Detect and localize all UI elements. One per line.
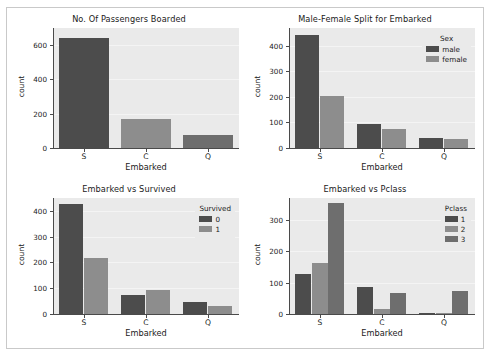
legend-swatch [199, 216, 212, 222]
x-tick-label-S: S [300, 318, 340, 327]
x-tick-label-Q: Q [424, 318, 464, 327]
bar-male-female-split-Q-female [444, 139, 468, 148]
y-tick-label: 100 [251, 278, 283, 287]
x-tick-label-S: S [300, 152, 340, 161]
x-tick-mark [320, 149, 321, 152]
bar-embarked-vs-survived-C-0 [121, 295, 145, 314]
legend-embarked-vs-pclass: Pclass123 [441, 202, 471, 248]
x-axis-label: Embarked [53, 328, 239, 338]
legend-embarked-vs-survived: Survived01 [195, 202, 235, 238]
legend-entry[interactable]: female [426, 55, 467, 64]
legend-swatch [199, 226, 212, 232]
y-axis-label: count [17, 65, 26, 109]
y-axis-spine [53, 28, 54, 148]
y-axis-spine [289, 28, 290, 148]
bar-male-female-split-C-male [357, 124, 381, 148]
bar-passengers-boarded-C [121, 119, 171, 148]
bar-embarked-vs-survived-Q-0 [183, 302, 207, 314]
legend-male-female-split: Sexmalefemale [422, 32, 471, 68]
bar-male-female-split-S-female [320, 96, 344, 148]
y-tick-label: 0 [15, 310, 47, 319]
legend-entry[interactable]: 2 [445, 225, 467, 234]
x-tick-label-C: C [362, 318, 402, 327]
legend-entry[interactable]: male [426, 45, 467, 54]
legend-label: 0 [215, 215, 220, 224]
y-tick-label: 200 [15, 109, 47, 118]
subplot-title: Male-Female Split for Embarked [251, 14, 479, 24]
legend-swatch [426, 46, 439, 52]
bar-passengers-boarded-S [59, 38, 109, 148]
y-tick-label: 600 [15, 41, 47, 50]
x-tick-mark [84, 315, 85, 318]
subplot-male-female-split: Male-Female Split for Embarked0100200300… [251, 14, 479, 178]
y-tick-label: 100 [251, 118, 283, 127]
x-tick-label-S: S [64, 152, 104, 161]
legend-entry[interactable]: 3 [445, 235, 467, 244]
gridline [289, 251, 475, 252]
legend-label: female [442, 55, 467, 64]
legend-label: 2 [461, 225, 466, 234]
bar-embarked-vs-survived-C-1 [146, 290, 170, 314]
bar-embarked-vs-pclass-C-3 [390, 293, 406, 314]
subplot-passengers-boarded: No. Of Passengers Boarded0200400600count… [15, 14, 243, 178]
x-tick-label-Q: Q [188, 152, 228, 161]
legend-label: 3 [461, 235, 466, 244]
x-tick-mark [320, 315, 321, 318]
x-tick-mark [444, 149, 445, 152]
bar-embarked-vs-survived-S-1 [84, 258, 108, 314]
x-axis-label: Embarked [53, 162, 239, 172]
bar-embarked-vs-survived-Q-1 [208, 306, 232, 314]
y-tick-label: 100 [15, 284, 47, 293]
x-tick-label-C: C [126, 152, 166, 161]
figure-frame: No. Of Passengers Boarded0200400600count… [6, 7, 484, 349]
bar-embarked-vs-pclass-C-1 [357, 287, 373, 314]
x-tick-label-C: C [126, 318, 166, 327]
x-tick-mark [208, 149, 209, 152]
x-tick-mark [146, 315, 147, 318]
legend-label: 1 [461, 215, 466, 224]
x-axis-label: Embarked [289, 328, 475, 338]
y-tick-label: 0 [251, 144, 283, 153]
y-axis-label: count [253, 233, 262, 277]
legend-title: Pclass [445, 204, 467, 213]
x-tick-mark [208, 315, 209, 318]
subplot-title: Embarked vs Pclass [251, 184, 479, 194]
y-axis-spine [289, 198, 290, 314]
legend-swatch [445, 226, 458, 232]
bar-embarked-vs-survived-S-0 [59, 204, 83, 314]
bar-male-female-split-C-female [382, 129, 406, 148]
y-axis-label: count [253, 65, 262, 109]
y-tick-label: 0 [15, 144, 47, 153]
subplot-embarked-vs-survived: Embarked vs Survived0100200300400countEm… [15, 184, 243, 344]
x-tick-label-C: C [362, 152, 402, 161]
x-tick-mark [146, 149, 147, 152]
x-tick-mark [382, 315, 383, 318]
x-tick-mark [444, 315, 445, 318]
bar-passengers-boarded-Q [183, 135, 233, 148]
legend-swatch [445, 236, 458, 242]
bar-embarked-vs-pclass-S-3 [328, 203, 344, 314]
legend-title: Survived [199, 204, 231, 213]
plot-area [53, 28, 239, 148]
bar-male-female-split-S-male [295, 35, 319, 148]
bar-embarked-vs-pclass-S-1 [295, 274, 311, 314]
bar-embarked-vs-pclass-Q-3 [452, 291, 468, 314]
legend-entry[interactable]: 1 [199, 225, 231, 234]
legend-label: 1 [215, 225, 220, 234]
subplot-embarked-vs-pclass: Embarked vs Pclass0100200300countEmbarke… [251, 184, 479, 344]
bar-embarked-vs-pclass-S-2 [312, 263, 328, 314]
x-axis-label: Embarked [289, 162, 475, 172]
legend-entry[interactable]: 1 [445, 215, 467, 224]
y-axis-spine [53, 198, 54, 314]
y-tick-label: 300 [251, 215, 283, 224]
y-tick-label: 400 [15, 206, 47, 215]
x-tick-label-Q: Q [424, 152, 464, 161]
x-tick-label-Q: Q [188, 318, 228, 327]
legend-label: male [442, 45, 460, 54]
x-tick-mark [84, 149, 85, 152]
bar-male-female-split-Q-male [419, 138, 443, 148]
y-axis-label: count [17, 233, 26, 277]
x-tick-mark [382, 149, 383, 152]
legend-entry[interactable]: 0 [199, 215, 231, 224]
y-tick-label: 400 [251, 41, 283, 50]
